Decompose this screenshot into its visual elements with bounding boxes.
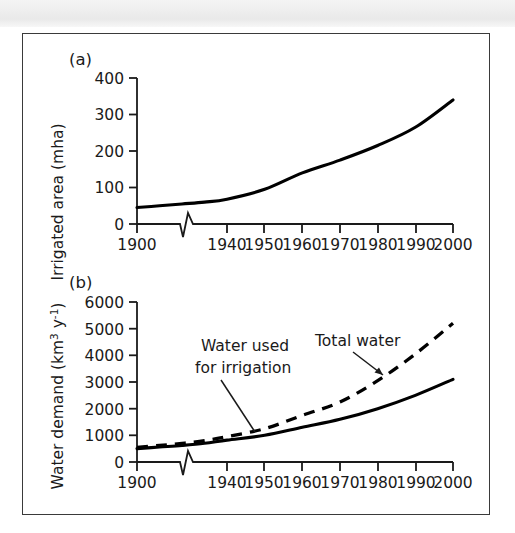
- panel-b-y-label-1000: 1000: [85, 427, 124, 445]
- panel-b-ylabel-mid: y: [49, 319, 67, 333]
- panel-b-y-axis-title: Water demand (km3 y-1): [48, 303, 67, 490]
- panel-a-y-label-100: 100: [94, 179, 124, 197]
- panel-b-label: (b): [69, 273, 92, 292]
- panel-a-x-label-1970: 1970: [320, 236, 359, 254]
- figure-frame: (a) Irrigated area (mha) 0 100 200 300 4…: [22, 33, 490, 515]
- panel-b-x-label-1900: 1900: [117, 474, 156, 492]
- panel-b-x-label-1970: 1970: [320, 474, 359, 492]
- panel-a-x-axis: [137, 213, 453, 237]
- panel-a-x-label-1960: 1960: [282, 236, 321, 254]
- annotation-total-water-label: Total water: [314, 332, 401, 350]
- panel-b-ylabel-main: Water demand (km: [49, 340, 67, 489]
- panel-a-label: (a): [69, 50, 92, 69]
- panel-b-y-label-3000: 3000: [85, 374, 124, 392]
- panel-a-series-irrigated-area: [137, 100, 453, 208]
- panel-b-x-axis: [137, 451, 453, 475]
- panel-a-x-label-1950: 1950: [244, 236, 283, 254]
- panel-b-y-label-0: 0: [114, 454, 124, 472]
- panel-b: (b) Water demand (km3 y-1) 0 1000 2000 3…: [48, 273, 473, 492]
- panel-a-y-label-0: 0: [114, 216, 124, 234]
- panel-b-series-water-used-for-irrigation: [137, 379, 453, 448]
- panel-a-y-label-300: 300: [94, 106, 124, 124]
- panel-a-x-label-2000: 2000: [433, 236, 472, 254]
- panel-b-ylabel-sup2: -1: [48, 309, 60, 319]
- page-top-band: [0, 0, 515, 27]
- panel-a-x-label-1940: 1940: [207, 236, 246, 254]
- panel-a-x-label-1990: 1990: [396, 236, 435, 254]
- panel-a-y-axis-title: Irrigated area (mha): [49, 123, 67, 280]
- annotation-irrigation-leader: [221, 380, 255, 432]
- annotation-irrigation-label-line2: for irrigation: [195, 359, 291, 377]
- panel-a-y-label-400: 400: [94, 70, 124, 88]
- annotation-irrigation-label-line1: Water used: [201, 337, 289, 355]
- panel-a: (a) Irrigated area (mha) 0 100 200 300 4…: [49, 50, 473, 281]
- figure-plot-area: (a) Irrigated area (mha) 0 100 200 300 4…: [23, 34, 489, 514]
- panel-b-x-label-1960: 1960: [282, 474, 321, 492]
- panel-a-x-label-1900: 1900: [117, 236, 156, 254]
- panel-b-y-label-6000: 6000: [85, 294, 124, 312]
- panel-a-y-label-200: 200: [94, 143, 124, 161]
- panel-b-y-label-5000: 5000: [85, 321, 124, 339]
- panel-a-x-label-1980: 1980: [358, 236, 397, 254]
- panel-b-x-label-1940: 1940: [207, 474, 246, 492]
- panel-b-x-label-2000: 2000: [433, 474, 472, 492]
- panel-b-x-label-1980: 1980: [358, 474, 397, 492]
- panel-b-x-label-1990: 1990: [396, 474, 435, 492]
- panel-b-y-label-2000: 2000: [85, 401, 124, 419]
- panel-b-x-label-1950: 1950: [244, 474, 283, 492]
- panel-b-ylabel-sup1: 3: [48, 333, 60, 340]
- panel-b-ylabel-end: ): [49, 303, 67, 309]
- panel-b-y-label-4000: 4000: [85, 347, 124, 365]
